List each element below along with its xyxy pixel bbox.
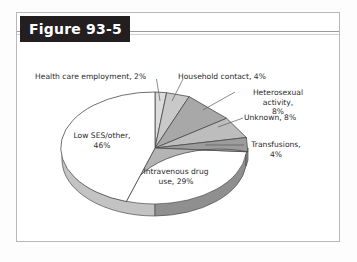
pie-label-household-contact: Household contact, 4% xyxy=(178,72,266,82)
pie-label-low-ses-other-text: Low SES/other, xyxy=(73,131,130,140)
pie-label-low-ses-other-value: 46% xyxy=(94,141,111,150)
pie-label-heterosexual-activity-text: Heterosexual activity, xyxy=(253,88,303,107)
pie-label-health-care-employment-text: Health care employment, 2% xyxy=(35,72,146,81)
pie-label-low-ses-other: Low SES/other, 46% xyxy=(62,131,142,150)
pie-chart xyxy=(0,0,357,262)
leader-line-heterosexual-activity xyxy=(203,92,235,110)
pie-label-health-care-employment: Health care employment, 2% xyxy=(35,72,146,82)
pie-label-transfusions-value: 4% xyxy=(270,150,282,159)
pie-label-transfusions: Transfusions, 4% xyxy=(245,140,307,159)
pie-label-intravenous-drug-use: Intravenous drug use, 29% xyxy=(130,167,222,186)
pie-label-intravenous-drug-use-text: Intravenous drug xyxy=(143,167,208,176)
pie-label-household-contact-text: Household contact, 4% xyxy=(178,72,266,81)
pie-label-unknown-text: Unknown, 8% xyxy=(244,113,296,122)
pie-label-unknown: Unknown, 8% xyxy=(244,113,296,123)
pie-label-transfusions-text: Transfusions, xyxy=(251,140,300,149)
figure-root: Figure 93-5 xyxy=(0,0,357,262)
pie-label-intravenous-drug-use-value: use, 29% xyxy=(158,177,193,186)
